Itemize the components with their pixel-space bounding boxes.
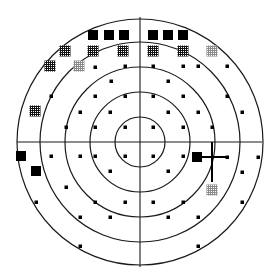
dot-marker (50, 95, 54, 99)
dot-marker (124, 95, 128, 99)
dot-marker (197, 216, 201, 220)
black-square-marker (119, 30, 129, 40)
dot-marker (226, 65, 230, 69)
black-square-marker (16, 151, 26, 161)
dot-marker (124, 65, 128, 69)
light-grid-marker (207, 46, 218, 57)
dot-marker (124, 201, 128, 205)
black-square-marker (148, 30, 158, 40)
dot-marker (257, 156, 261, 160)
dot-marker (124, 126, 128, 130)
dot-marker (152, 65, 156, 69)
dot-marker (109, 111, 113, 115)
dot-marker (241, 171, 245, 175)
dot-marker (167, 170, 171, 174)
dark-grid-marker (88, 46, 99, 57)
dot-marker (197, 111, 201, 115)
dot-marker (94, 126, 98, 130)
dot-marker (197, 65, 201, 69)
dot-marker (182, 126, 186, 130)
test-point-markers (16, 30, 260, 248)
dot-marker (167, 111, 171, 115)
dot-marker (152, 155, 156, 159)
dot-marker (79, 245, 83, 249)
dot-marker (167, 80, 171, 84)
dot-marker (109, 216, 113, 220)
dot-marker (226, 95, 230, 99)
dark-grid-marker (148, 46, 159, 57)
dot-marker (94, 155, 98, 159)
light-grid-marker (207, 185, 218, 196)
dot-marker (94, 66, 98, 70)
dot-marker (79, 216, 83, 220)
dot-marker (152, 126, 156, 130)
dot-marker (94, 95, 98, 99)
dot-marker (197, 245, 201, 249)
dark-grid-marker (60, 46, 71, 57)
dot-marker (182, 155, 186, 159)
dot-marker (79, 111, 83, 115)
dot-marker (241, 111, 245, 115)
dot-marker (79, 155, 83, 159)
dot-marker (50, 155, 54, 159)
black-square-marker (104, 30, 114, 40)
black-square-marker (88, 30, 98, 40)
dot-marker (65, 186, 69, 190)
dot-marker (152, 201, 156, 205)
visual-field-plot (0, 0, 277, 280)
black-square-marker (31, 166, 41, 176)
dot-marker (110, 80, 114, 84)
dot-marker (65, 126, 69, 130)
dot-marker (182, 201, 186, 205)
dot-marker (94, 201, 98, 205)
polar-diagram (0, 0, 277, 280)
dot-marker (241, 201, 245, 205)
dot-marker (35, 201, 39, 205)
black-square-marker (163, 30, 173, 40)
dot-marker (167, 216, 171, 220)
light-grid-marker (74, 61, 85, 72)
dot-marker (211, 126, 215, 130)
dot-marker (109, 170, 113, 174)
dark-grid-marker (178, 46, 189, 57)
dark-grid-marker (45, 61, 56, 72)
dark-grid-marker (118, 46, 129, 57)
dot-marker (182, 95, 186, 99)
black-square-marker (178, 30, 188, 40)
dot-marker (152, 95, 156, 99)
dot-marker (124, 155, 128, 159)
dark-grid-marker (30, 106, 41, 117)
dot-marker (182, 65, 186, 69)
